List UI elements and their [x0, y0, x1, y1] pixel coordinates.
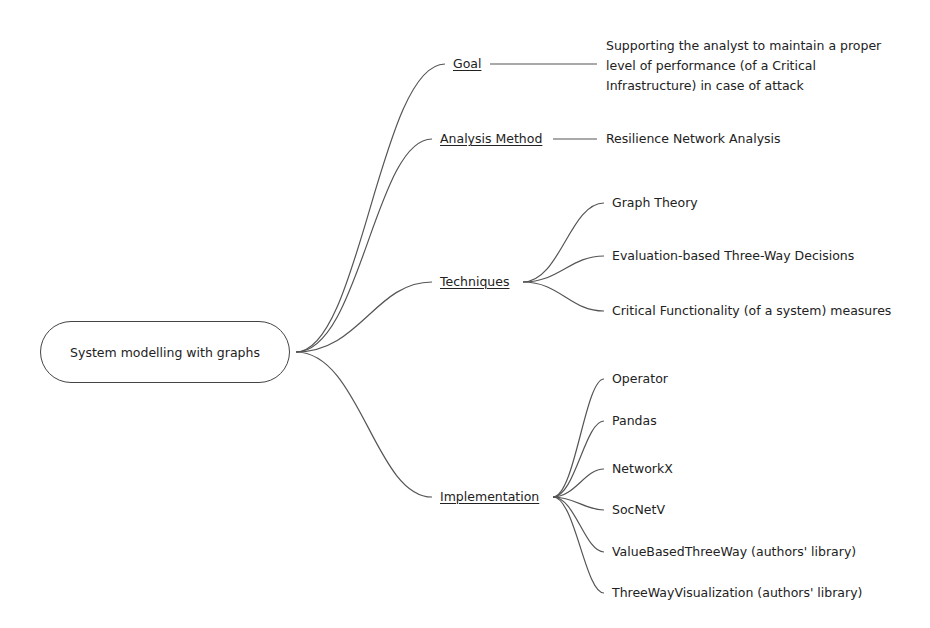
link-root-implementation — [296, 352, 432, 497]
branch-analysis-method: Analysis Method — [440, 131, 542, 147]
leaf-threewayvisualization: ThreeWayVisualization (authors' library) — [612, 585, 862, 601]
branch-implementation: Implementation — [440, 489, 539, 505]
root-node: System modelling with graphs — [40, 321, 290, 383]
link-impl-6 — [553, 497, 604, 593]
leaf-valuebasedthreeway: ValueBasedThreeWay (authors' library) — [612, 544, 856, 560]
link-impl-1 — [553, 379, 604, 497]
leaf-networkx: NetworkX — [612, 461, 673, 477]
branch-techniques: Techniques — [440, 274, 509, 290]
link-impl-5 — [553, 497, 604, 552]
leaf-graph-theory: Graph Theory — [612, 195, 698, 211]
link-tech-3 — [523, 282, 604, 311]
leaf-three-way-decisions: Evaluation-based Three-Way Decisions — [612, 248, 854, 264]
root-label: System modelling with graphs — [70, 345, 260, 360]
branch-goal: Goal — [453, 56, 481, 72]
leaf-critical-functionality: Critical Functionality (of a system) mea… — [612, 303, 891, 319]
mind-map-canvas: System modelling with graphs Goal Analys… — [0, 0, 930, 628]
link-tech-2 — [523, 256, 604, 282]
leaf-operator: Operator — [612, 371, 668, 387]
leaf-socnetv: SocNetV — [612, 502, 665, 518]
leaf-resilience-network-analysis: Resilience Network Analysis — [606, 131, 781, 147]
leaf-pandas: Pandas — [612, 413, 657, 429]
leaf-goal-description: Supporting the analyst to maintain a pro… — [606, 36, 906, 96]
link-impl-2 — [553, 421, 604, 497]
link-root-goal — [296, 64, 445, 352]
